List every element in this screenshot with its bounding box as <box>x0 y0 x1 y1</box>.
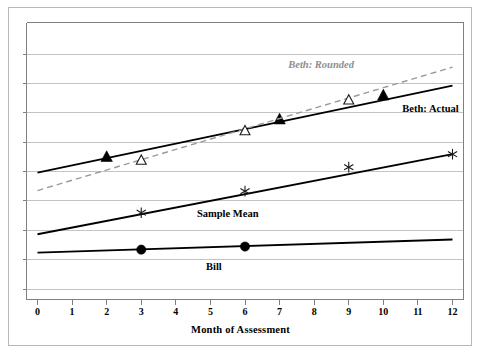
x-tick-label-11: 11 <box>407 306 429 318</box>
x-tick-label-7: 7 <box>269 306 291 318</box>
series-layer <box>38 67 458 254</box>
x-tick-label-1: 1 <box>61 306 83 318</box>
series-label-beth-rounded: Beth: Rounded <box>288 59 354 70</box>
x-tick-label-8: 8 <box>303 306 325 318</box>
marker-filled-triangle <box>101 151 112 162</box>
marker-star <box>344 162 353 173</box>
y-axis-ticks <box>23 55 27 290</box>
x-tick-label-9: 9 <box>338 306 360 318</box>
x-tick-label-3: 3 <box>130 306 152 318</box>
x-axis-title: Month of Assessment <box>0 324 481 335</box>
x-tick-label-2: 2 <box>96 306 118 318</box>
x-tick-label-10: 10 <box>372 306 394 318</box>
marker-star <box>137 207 146 218</box>
marker-filled-circle <box>240 242 249 251</box>
series-label-beth-actual: Beth: Actual <box>402 103 458 114</box>
series-beth-rounded <box>38 67 453 190</box>
series-label-sample-mean: Sample Mean <box>197 208 259 219</box>
series-bill <box>38 239 453 254</box>
x-axis-ticks <box>38 300 453 305</box>
x-tick-label-4: 4 <box>165 306 187 318</box>
gridlines-horizontal <box>27 55 464 290</box>
marker-filled-circle <box>137 245 146 254</box>
x-tick-label-0: 0 <box>27 306 49 318</box>
series-label-bill: Bill <box>206 261 222 272</box>
marker-open-triangle <box>136 155 146 164</box>
x-tick-label-6: 6 <box>234 306 256 318</box>
series-sample-mean <box>38 149 458 234</box>
marker-filled-triangle <box>378 89 389 100</box>
x-tick-label-12: 12 <box>442 306 464 318</box>
chart-container: 0123456789101112 Month of Assessment Bet… <box>0 0 481 361</box>
x-tick-label-5: 5 <box>199 306 221 318</box>
